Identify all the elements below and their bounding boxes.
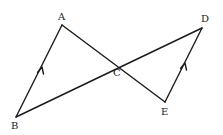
label-d: D [201, 13, 209, 24]
label-b: B [11, 120, 18, 131]
label-c: C [113, 67, 121, 78]
segment-ae [62, 25, 165, 102]
geometry-diagram: A B C D E [0, 0, 223, 135]
label-e: E [161, 106, 168, 117]
segment-bd [16, 28, 202, 117]
label-a: A [57, 11, 66, 22]
